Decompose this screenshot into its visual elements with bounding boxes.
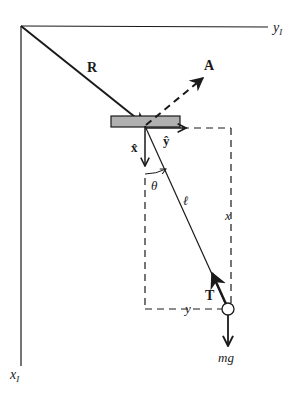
tension-vector-t: T [205, 273, 226, 304]
inertial-axes: yI xI [9, 20, 283, 384]
a-label: A [204, 58, 215, 73]
r-label: R [87, 60, 98, 75]
pendulum-bob [222, 303, 234, 315]
mg-label: mg [218, 350, 234, 365]
y-hat-unit-vector: ŷ [145, 128, 186, 148]
y-axis-label: yI [271, 20, 283, 37]
x-hat-unit-vector: x̂ [131, 126, 145, 166]
support-block [111, 116, 180, 127]
x-axis-label: xI [9, 367, 20, 384]
position-vector-r: R [21, 26, 145, 125]
y-inertial-axis [21, 26, 268, 27]
theta-label: θ [151, 178, 158, 193]
x-hat-label: x̂ [131, 140, 138, 155]
theta-angle: θ [145, 169, 166, 193]
length-label: ℓ [183, 193, 189, 208]
x-displacement-label: x [224, 208, 231, 223]
y-hat-label: ŷ [163, 133, 170, 148]
t-label: T [205, 288, 215, 303]
y-displacement-label: y [183, 301, 191, 316]
acceleration-vector-a: A [146, 58, 215, 125]
weight-vector-mg: mg [218, 315, 234, 365]
pendulum-diagram: yI xI R x y A x̂ ŷ ℓ θ [0, 0, 296, 393]
